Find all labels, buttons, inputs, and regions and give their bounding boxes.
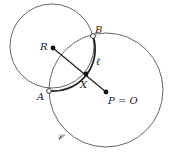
point-p — [104, 90, 109, 95]
label-a: A — [36, 91, 44, 102]
label-x: X — [79, 79, 88, 90]
point-a — [47, 89, 52, 94]
point-x — [84, 72, 89, 77]
point-r — [51, 46, 56, 51]
label-b: B — [94, 24, 102, 35]
label-p: P = O — [107, 95, 138, 106]
label-l: ℓ — [96, 56, 100, 67]
label-c: 𝒞 — [57, 133, 65, 142]
geometry-diagram: B R ℓ X A P = O 𝒞 — [0, 0, 172, 157]
label-r: R — [39, 41, 48, 52]
